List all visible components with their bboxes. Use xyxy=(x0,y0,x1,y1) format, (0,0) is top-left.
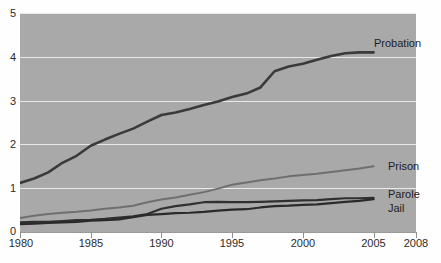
y-tick-label-1: 1 xyxy=(2,183,16,194)
x-tick-label-2008: 2008 xyxy=(396,238,436,249)
series-label-prison: Prison xyxy=(388,161,419,172)
x-tick-label-1980: 1980 xyxy=(1,238,41,249)
line-parole xyxy=(20,198,374,223)
x-tick-label-1985: 1985 xyxy=(71,238,111,249)
x-axis-line xyxy=(20,232,416,233)
x-tick-label-1995: 1995 xyxy=(212,238,252,249)
y-tick-label-3: 3 xyxy=(2,96,16,107)
x-tick-label-1990: 1990 xyxy=(142,238,182,249)
y-tick-label-2: 2 xyxy=(2,139,16,150)
series-label-parole: Parole xyxy=(388,189,420,200)
line-prison xyxy=(20,166,374,218)
x-tick-label-2005: 2005 xyxy=(354,238,394,249)
line-probation xyxy=(20,52,374,183)
series-label-jail: Jail xyxy=(388,203,405,214)
series-label-probation: Probation xyxy=(374,38,421,49)
plot-area xyxy=(20,13,416,232)
x-tick-label-2000: 2000 xyxy=(283,238,323,249)
y-tick-label-5: 5 xyxy=(2,8,16,19)
y-tick-label-0: 0 xyxy=(2,226,16,237)
y-tick-label-4: 4 xyxy=(2,52,16,63)
chart-figure: 5 4 3 2 1 0 1980 1985 1990 1995 2000 200… xyxy=(0,0,441,263)
series-lines xyxy=(20,13,416,232)
